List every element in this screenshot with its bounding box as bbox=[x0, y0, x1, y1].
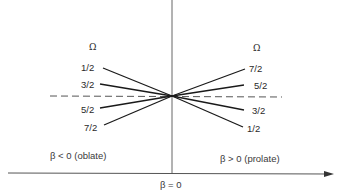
prolate-level-3-2 bbox=[172, 96, 244, 110]
prolate-label-7-2: 7/2 bbox=[249, 63, 262, 74]
oblate-level-7-2 bbox=[104, 96, 172, 125]
axis-arrow-icon bbox=[324, 171, 334, 177]
prolate-label-3-2: 3/2 bbox=[252, 105, 265, 116]
horizontal-axis bbox=[8, 173, 330, 174]
oblate-level-5-2 bbox=[100, 96, 172, 108]
oblate-label-7-2: 7/2 bbox=[84, 122, 97, 133]
prolate-level-1-2 bbox=[172, 96, 243, 127]
horizontal-axis-label: β = 0 bbox=[160, 179, 182, 190]
oblate-level-1-2 bbox=[103, 68, 172, 96]
prolate-level-5-2 bbox=[172, 85, 244, 96]
oblate-region-label: β < 0 (oblate) bbox=[50, 150, 106, 161]
oblate-label-3-2: 3/2 bbox=[81, 79, 94, 90]
prolate-level-7-2 bbox=[172, 69, 245, 96]
oblate-label-5-2: 5/2 bbox=[81, 104, 94, 115]
prolate-region-label: β > 0 (prolate) bbox=[220, 153, 280, 164]
prolate-levels bbox=[172, 69, 245, 127]
oblate-omega-header: Ω bbox=[89, 42, 96, 52]
prolate-label-5-2: 5/2 bbox=[254, 80, 267, 91]
oblate-label-1-2: 1/2 bbox=[81, 62, 94, 73]
prolate-omega-header: Ω bbox=[253, 43, 260, 53]
oblate-level-3-2 bbox=[100, 84, 172, 96]
prolate-label-1-2: 1/2 bbox=[247, 123, 260, 134]
splitting-diagram: Ω 1/2 3/2 5/2 7/2 β < 0 (oblate) Ω 7/2 5… bbox=[0, 0, 344, 193]
